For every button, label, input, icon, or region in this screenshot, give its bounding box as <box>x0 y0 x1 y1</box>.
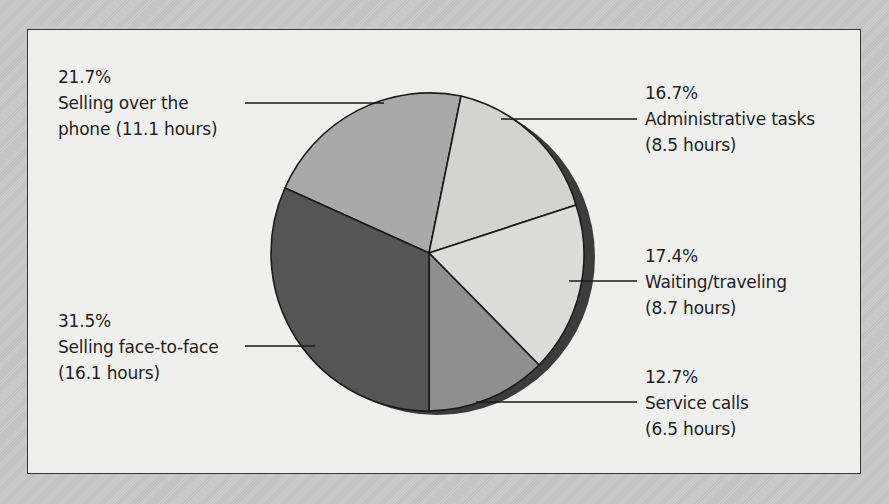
category-label: Administrative tasks <box>645 106 815 132</box>
hours-value: (8.7 hours) <box>645 295 787 321</box>
hours-value: phone (11.1 hours) <box>58 116 217 142</box>
category-label: Selling over the <box>58 90 217 116</box>
category-label: Selling face-to-face <box>58 334 218 360</box>
label-waiting-traveling: 17.4% Waiting/traveling (8.7 hours) <box>645 243 787 321</box>
hours-value: (6.5 hours) <box>645 416 749 442</box>
label-selling-face-to-face: 31.5% Selling face-to-face (16.1 hours) <box>58 308 218 386</box>
hours-value: (16.1 hours) <box>58 360 218 386</box>
hours-value: (8.5 hours) <box>645 132 815 158</box>
label-administrative-tasks: 16.7% Administrative tasks (8.5 hours) <box>645 80 815 158</box>
percent-value: 17.4% <box>645 243 787 269</box>
percent-value: 21.7% <box>58 64 217 90</box>
percent-value: 12.7% <box>645 364 749 390</box>
label-service-calls: 12.7% Service calls (6.5 hours) <box>645 364 749 442</box>
category-label: Service calls <box>645 390 749 416</box>
category-label: Waiting/traveling <box>645 269 787 295</box>
label-selling-over-the-phone: 21.7% Selling over the phone (11.1 hours… <box>58 64 217 142</box>
percent-value: 16.7% <box>645 80 815 106</box>
percent-value: 31.5% <box>58 308 218 334</box>
